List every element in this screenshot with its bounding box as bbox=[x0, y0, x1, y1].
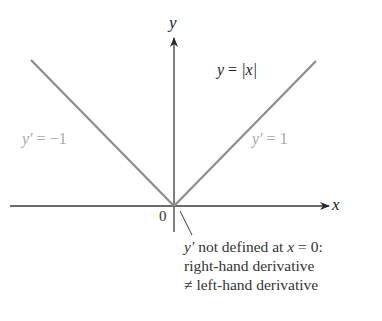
right-slope-eq: = 1 bbox=[263, 130, 288, 147]
y-axis-label: y bbox=[169, 14, 177, 31]
left-slope-var: y′ bbox=[22, 130, 33, 147]
function-eq: = bbox=[224, 61, 241, 78]
function-label: y = |x| bbox=[217, 62, 257, 78]
function-rhs: |x| bbox=[241, 61, 257, 78]
annotation-line-1-text: not defined at bbox=[194, 238, 287, 255]
annotation-line-1-tail: = 0: bbox=[294, 238, 323, 255]
x-axis-label: x bbox=[332, 196, 340, 213]
annotation-line-2: right-hand derivative bbox=[184, 256, 323, 275]
annotation-pointer bbox=[180, 211, 192, 235]
left-slope-eq: = −1 bbox=[33, 130, 67, 147]
annotation-line-1: y′ not defined at x = 0: bbox=[184, 237, 323, 256]
annotation-derivative-symbol: y′ bbox=[184, 238, 194, 255]
right-slope-label: y′ = 1 bbox=[252, 131, 288, 147]
left-slope-label: y′ = −1 bbox=[22, 131, 67, 147]
origin-label: 0 bbox=[159, 209, 167, 224]
graph-right-branch bbox=[174, 61, 316, 206]
annotation-text: y′ not defined at x = 0: right-hand deri… bbox=[184, 237, 323, 294]
right-slope-var: y′ bbox=[252, 130, 263, 147]
annotation-line-3: ≠ left-hand derivative bbox=[184, 275, 323, 294]
